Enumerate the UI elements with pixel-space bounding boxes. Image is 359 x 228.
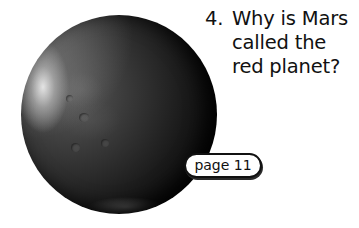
worksheet-page: 4.Why is Mars called the red planet? pag… [0, 0, 359, 228]
crater [71, 143, 80, 152]
crater [79, 113, 89, 122]
mars-planet-image [21, 15, 217, 214]
question-number: 4. [205, 7, 232, 31]
question-line-3: red planet? [205, 55, 355, 79]
question-line-1-text: Why is Mars [232, 7, 348, 30]
question-text: 4.Why is Mars called the red planet? [205, 7, 355, 79]
question-line-1: 4.Why is Mars [205, 7, 355, 31]
page-reference-badge: page 11 [184, 153, 262, 178]
crater [101, 139, 109, 147]
crater [66, 95, 73, 102]
question-line-2: called the [205, 31, 355, 55]
